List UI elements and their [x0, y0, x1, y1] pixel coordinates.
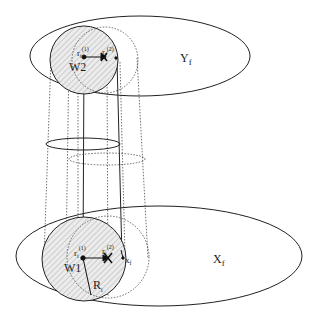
label-yf: Yf	[180, 51, 192, 67]
middle-ellipse-solid	[46, 138, 120, 150]
label-w1: W1	[64, 261, 81, 275]
label-xf-point: xf	[125, 255, 132, 266]
label-xf: Xf	[213, 252, 225, 268]
diagram-canvas: Yf Xf W2 W1 ri(1) ri(2) ri(1) ri(2) xf R…	[0, 0, 312, 323]
middle-ellipse-dotted	[69, 153, 145, 165]
label-w2: W2	[69, 60, 86, 74]
